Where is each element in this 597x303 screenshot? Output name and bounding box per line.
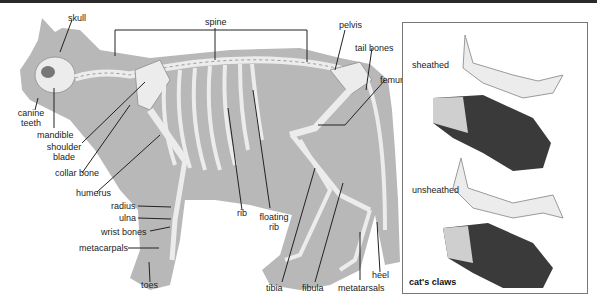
label-unsheathed: unsheathed [412, 185, 459, 195]
label-fibula: fibula [302, 283, 324, 293]
label-tail-bones: tail bones [355, 43, 394, 53]
cats-claws-inset: sheathed unsheathed cat's claws [402, 22, 588, 294]
label-collar-bone: collar bone [55, 168, 99, 178]
label-mandible: mandible [37, 130, 74, 140]
label-humerus: humerus [76, 188, 111, 198]
label-floating-rib: floatingrib [257, 212, 291, 232]
label-wrist-bones: wrist bones [101, 227, 147, 237]
label-shoulder-blade: shoulderblade [44, 142, 84, 162]
label-femur: femur [380, 75, 403, 85]
label-spine: spine [205, 17, 227, 27]
label-skull: skull [68, 13, 86, 23]
sheathed-claw-bones [463, 35, 563, 98]
label-radius: radius [111, 201, 136, 211]
label-heel: heel [372, 270, 389, 280]
label-rib: rib [237, 208, 247, 218]
label-canine-teeth: canineteeth [16, 108, 46, 128]
label-ulna: ulna [119, 213, 136, 223]
label-toes: toes [141, 280, 158, 290]
label-metacarpals: metacarpals [79, 243, 128, 253]
label-sheathed: sheathed [412, 60, 449, 70]
skull-bone [35, 57, 75, 93]
inset-title: cat's claws [409, 277, 456, 287]
label-metatarsals: metatarsals [338, 283, 385, 293]
label-pelvis: pelvis [339, 20, 362, 30]
label-tibia: tibia [266, 283, 283, 293]
